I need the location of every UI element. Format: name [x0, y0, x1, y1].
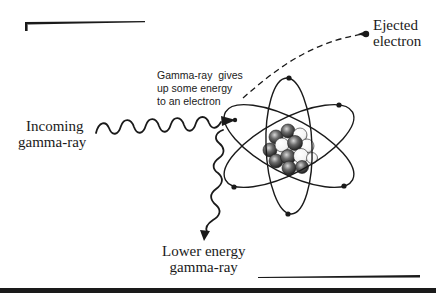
incoming-gamma-ray-wave [96, 117, 221, 134]
incoming-gamma-ray-label: Incoming gamma-ray [18, 119, 86, 151]
scattered-gamma-ray-wave [206, 130, 223, 232]
electron-icon [233, 118, 237, 122]
electron-icon [336, 102, 341, 107]
electron-icon [341, 183, 346, 188]
label-line: up some energy [157, 82, 243, 95]
electron-icon [285, 211, 290, 216]
label-line: gamma-ray [18, 135, 86, 151]
label-line: to an electron [157, 95, 243, 108]
interaction-label: Gamma-ray gives up some energy to an ele… [157, 69, 243, 107]
ejected-electron-path [243, 34, 364, 98]
top-left-bracket [25, 21, 145, 31]
bottom-border-bar [0, 288, 436, 293]
label-line: gamma-ray [162, 260, 245, 276]
bottom-right-rule [258, 275, 420, 278]
label-line: Incoming [18, 119, 86, 135]
electron-icon [286, 75, 291, 80]
ejected-electron-label: Ejected electron [373, 18, 421, 50]
label-line: electron [373, 34, 421, 50]
label-line: Gamma-ray gives [157, 69, 243, 82]
label-line: Lower energy [162, 244, 245, 260]
ejected-electron-icon [358, 31, 369, 37]
lower-energy-gamma-ray-label: Lower energy gamma-ray [162, 244, 245, 276]
electron-icon [231, 184, 236, 189]
scattered-arrowhead-icon [200, 230, 210, 241]
label-line: Ejected [373, 18, 421, 34]
